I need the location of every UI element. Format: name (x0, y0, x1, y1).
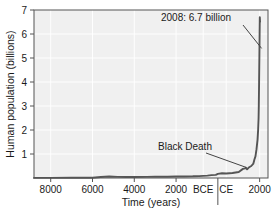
peak-annotation-label: 2008: 6.7 billion (161, 12, 231, 23)
x-tick-label-BCE: BCE (193, 184, 214, 195)
y-tick-label-5: 5 (21, 53, 27, 64)
x-axis-title: Time (years) (122, 196, 181, 208)
x-tick-label-2000: 2000 (165, 184, 188, 195)
x-axis-ticks: 8000600040002000BCECE2000 (40, 178, 272, 195)
x-tick-label-8000: 8000 (40, 184, 63, 195)
y-tick-label-3: 3 (21, 101, 27, 112)
x-tick-label-6000: 6000 (81, 184, 104, 195)
y-tick-label-4: 4 (21, 77, 27, 88)
y-tick-label-2: 2 (21, 125, 27, 136)
y-tick-label-7: 7 (21, 5, 27, 16)
y-tick-label-1: 1 (21, 149, 27, 160)
x-tick-label-2000: 2000 (249, 184, 272, 195)
x-tick-label-CE: CE (219, 184, 233, 195)
y-axis-title: Human population (billions) (4, 30, 16, 157)
y-axis-ticks: 1234567 (21, 5, 34, 160)
plot-background (34, 10, 268, 178)
black-death-annotation-label: Black Death (158, 141, 212, 152)
chart-svg: 1234567 8000600040002000BCECE2000 2008: … (0, 0, 274, 213)
y-tick-label-6: 6 (21, 29, 27, 40)
x-tick-label-4000: 4000 (123, 184, 146, 195)
population-chart-figure: 1234567 8000600040002000BCECE2000 2008: … (0, 0, 274, 213)
